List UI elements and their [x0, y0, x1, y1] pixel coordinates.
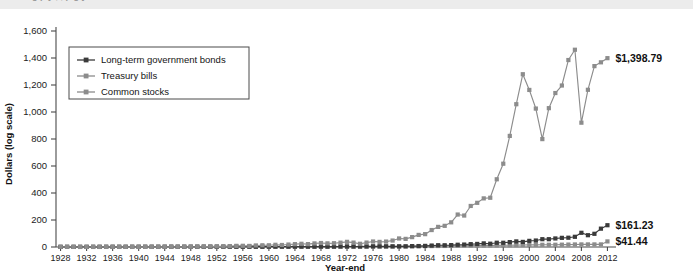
series-marker: [338, 241, 342, 245]
series-marker: [599, 242, 603, 246]
x-axis-tick-label: 2012: [597, 253, 617, 263]
series-marker: [540, 137, 544, 141]
x-axis-tick-label: 1960: [259, 253, 279, 263]
legend-item-label: Common stocks: [101, 86, 169, 97]
series-marker: [456, 212, 460, 216]
y-axis-tick-label: 1,600: [23, 25, 47, 36]
x-axis-tick-label: 1928: [51, 253, 71, 263]
series-marker: [566, 58, 570, 62]
series-marker: [156, 245, 160, 249]
series-marker: [579, 121, 583, 125]
series-marker: [312, 241, 316, 245]
x-axis-tick-label: 1988: [441, 253, 461, 263]
series-marker: [579, 231, 583, 235]
series-marker: [228, 244, 232, 248]
series-marker: [163, 245, 167, 249]
x-axis-tick-label: 1944: [155, 253, 175, 263]
series-marker: [85, 245, 89, 249]
series-marker: [423, 244, 427, 248]
series-marker: [130, 245, 134, 249]
y-axis-tick-label: 0: [42, 241, 47, 252]
end-label-stocks: $1,398.79: [615, 52, 662, 64]
series-marker: [605, 239, 609, 243]
chart-legend: Long-term government bondsTreasury bills…: [69, 47, 249, 99]
series-marker: [143, 245, 147, 249]
series-marker: [534, 238, 538, 242]
x-axis-tick-label: 1948: [181, 253, 201, 263]
series-marker: [397, 244, 401, 248]
series-marker: [495, 177, 499, 181]
end-label-bonds: $161.23: [615, 219, 653, 231]
series-marker: [456, 243, 460, 247]
series-marker: [547, 106, 551, 110]
series-marker: [534, 243, 538, 247]
series-marker: [306, 242, 310, 246]
series-marker: [553, 91, 557, 95]
series-marker: [423, 232, 427, 236]
series-marker: [137, 245, 141, 249]
series-marker: [599, 227, 603, 231]
series-marker: [417, 233, 421, 237]
series-marker: [293, 242, 297, 246]
series-marker: [436, 225, 440, 229]
series-marker: [605, 223, 609, 227]
series-marker: [319, 241, 323, 245]
series-marker: [150, 245, 154, 249]
series-marker: [547, 243, 551, 247]
end-label-tbills: $41.44: [615, 235, 647, 247]
y-axis-title: Dollars (log scale): [3, 103, 14, 185]
series-marker: [527, 239, 531, 243]
cut-off-caption-text: g p y , , p g y: [32, 0, 87, 1]
series-marker: [514, 243, 518, 247]
series-marker: [488, 242, 492, 246]
series-marker: [566, 242, 570, 246]
y-axis-tick-label: 1,000: [23, 106, 47, 117]
series-marker: [182, 245, 186, 249]
series-marker: [560, 236, 564, 240]
series-marker: [527, 88, 531, 92]
x-axis-tick-label: 1980: [389, 253, 409, 263]
series-marker: [469, 242, 473, 246]
x-axis-tick-label: 1992: [467, 253, 487, 263]
series-marker: [98, 245, 102, 249]
legend-item-label: Treasury bills: [101, 70, 157, 81]
series-marker: [104, 245, 108, 249]
series-marker: [364, 240, 368, 244]
series-marker: [488, 196, 492, 200]
series-marker: [521, 240, 525, 244]
series-marker: [449, 220, 453, 224]
series-marker: [547, 237, 551, 241]
x-axis-tick-label: 1976: [363, 253, 383, 263]
series-marker: [325, 241, 329, 245]
series-marker: [514, 239, 518, 243]
series-marker: [338, 244, 342, 248]
series-marker: [176, 245, 180, 249]
series-marker: [482, 196, 486, 200]
legend-swatch-marker: [84, 90, 89, 95]
series-marker: [286, 242, 290, 246]
series-marker: [553, 236, 557, 240]
series-marker: [202, 245, 206, 249]
series-marker: [345, 244, 349, 248]
series-marker: [169, 245, 173, 249]
x-axis-tick-label: 2008: [571, 253, 591, 263]
investment-growth-line-chart: 02004006008001,0001,2001,4001,600 192819…: [0, 9, 693, 279]
series-marker: [280, 243, 284, 247]
chart-container: 02004006008001,0001,2001,4001,600 192819…: [0, 9, 693, 279]
series-marker: [501, 162, 505, 166]
series-marker: [573, 48, 577, 52]
series-marker: [573, 235, 577, 239]
series-marker: [586, 233, 590, 237]
series-marker: [540, 243, 544, 247]
series-marker: [566, 236, 570, 240]
series-marker: [345, 240, 349, 244]
series-marker: [404, 244, 408, 248]
x-axis-tick-label: 1932: [77, 253, 97, 263]
series-marker: [501, 241, 505, 245]
series-marker: [124, 245, 128, 249]
series-marker: [592, 64, 596, 68]
series-marker: [430, 228, 434, 232]
series-marker: [215, 244, 219, 248]
series-marker: [364, 244, 368, 248]
series-marker: [208, 244, 212, 248]
